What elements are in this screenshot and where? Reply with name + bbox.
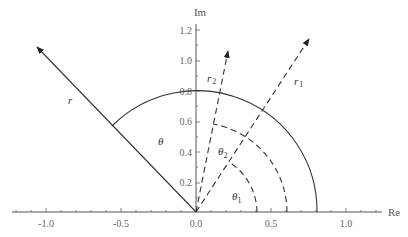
x-axis-label: Re: [388, 206, 400, 218]
vector-r1: [196, 39, 309, 212]
y-tick-label: 0.4: [180, 147, 193, 158]
label-theta1: θ1: [232, 190, 241, 205]
y-tick-label: 1.0: [180, 55, 193, 66]
x-tick-label: 0.0: [190, 218, 203, 229]
x-tick-label: 0.5: [265, 218, 278, 229]
y-tick-label: 0.6: [180, 116, 193, 127]
y-tick-label: 1.2: [180, 25, 193, 36]
y-axis-label: Im: [194, 6, 207, 18]
label-r2: r2: [207, 72, 216, 86]
x-axis: -1.0 -0.5 0.0 0.5 1.0 Re: [12, 206, 400, 229]
label-r: r: [68, 94, 73, 106]
label-theta2: θ2: [218, 145, 227, 160]
y-tick-label: 0.2: [180, 177, 193, 188]
theta1-arc: [229, 162, 257, 212]
label-theta: θ: [158, 135, 164, 147]
complex-plane-diagram: -1.0 -0.5 0.0 0.5 1.0 Re 0.2 0.4 0.6 0.8…: [0, 0, 408, 237]
theta-arc: [112, 91, 317, 212]
x-tick-label: -0.5: [113, 218, 129, 229]
vector-r: [37, 47, 196, 212]
x-tick-label: -1.0: [38, 218, 54, 229]
vector-r2: [196, 51, 228, 212]
x-tick-label: 1.0: [340, 218, 353, 229]
label-r1: r1: [294, 75, 303, 89]
